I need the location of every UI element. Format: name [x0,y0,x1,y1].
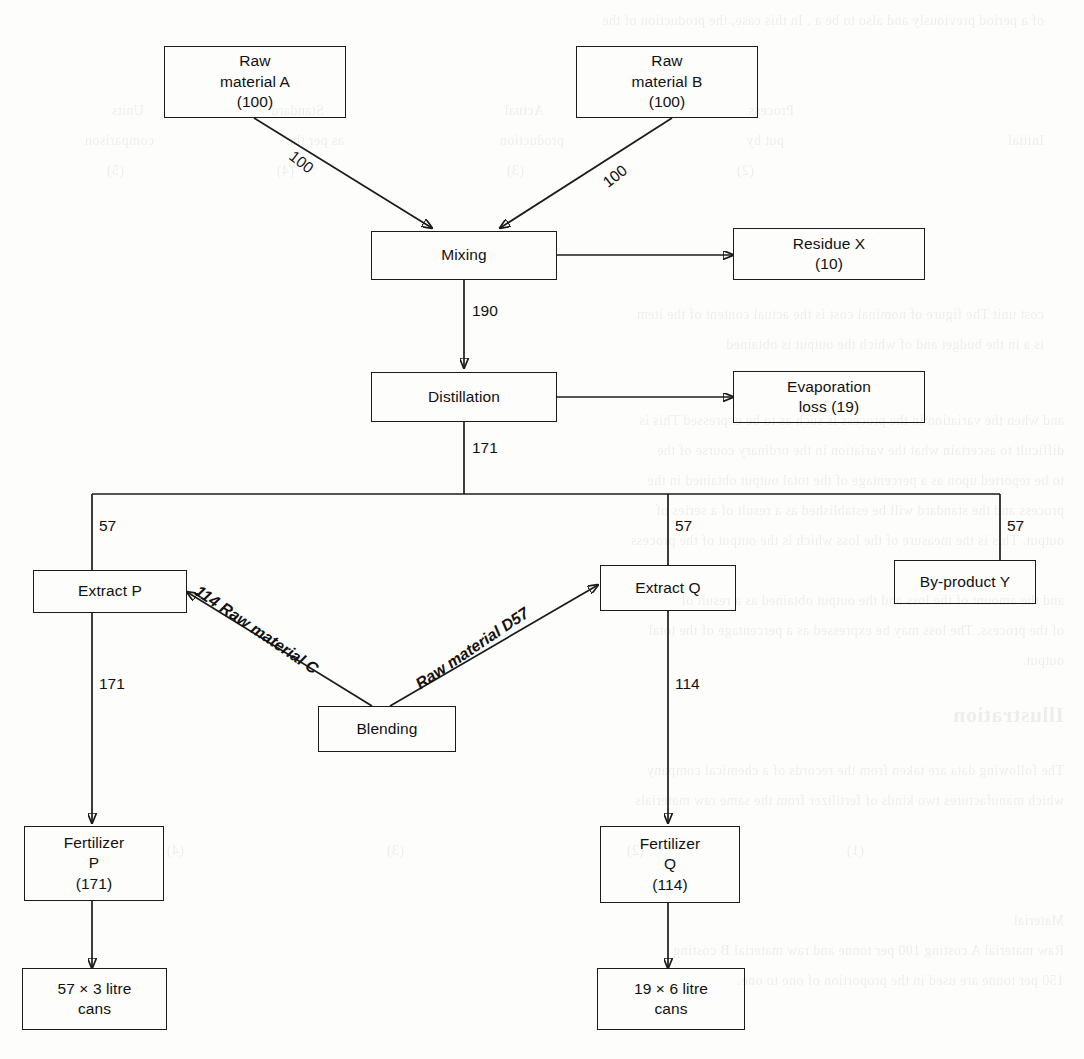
node-cans-q-line1: 19 × 6 litre [634,979,708,999]
edge-label-extract-p-to-fertilizer-p: 171 [99,676,125,692]
node-extract-q[interactable]: Extract Q [600,565,736,611]
node-distillation-label: Distillation [428,387,500,407]
node-raw-material-b-line2: material B [632,72,703,92]
node-residue-x[interactable]: Residue X (10) [733,228,925,280]
node-raw-material-b[interactable]: Raw material B (100) [576,46,758,118]
node-fertilizer-p-line3: (171) [64,874,124,894]
edge-b-to-mixing [500,118,672,228]
node-distillation[interactable]: Distillation [371,372,557,422]
node-fertilizer-q[interactable]: Fertilizer Q (114) [600,826,740,903]
node-raw-material-a-line3: (100) [220,92,290,112]
node-mixing[interactable]: Mixing [371,231,557,280]
node-by-product-y[interactable]: By-product Y [894,560,1036,604]
node-fertilizer-p-line1: Fertilizer [64,833,124,853]
node-cans-q[interactable]: 19 × 6 litre cans [597,968,745,1030]
node-fertilizer-q-line1: Fertilizer [640,834,700,854]
node-blending-label: Blending [356,719,417,739]
edge-label-split-to-by-product-y: 57 [1007,518,1024,534]
node-raw-material-a[interactable]: Raw material A (100) [164,46,346,118]
node-mixing-label: Mixing [441,245,486,265]
node-fertilizer-q-line3: (114) [640,875,700,895]
edge-a-to-mixing [254,118,432,228]
node-evaporation-loss-line2: loss (19) [787,397,871,417]
node-by-product-y-label: By-product Y [920,572,1011,592]
node-cans-p-line1: 57 × 3 litre [57,979,131,999]
node-extract-p[interactable]: Extract P [33,570,187,613]
diagram-page: of a period previously and also to be a … [0,0,1084,1059]
node-cans-p[interactable]: 57 × 3 litre cans [22,968,167,1030]
edge-label-mixing-to-distillation: 190 [472,303,498,319]
node-cans-p-line2: cans [57,999,131,1019]
node-fertilizer-p[interactable]: Fertilizer P (171) [24,826,164,901]
node-raw-material-a-line2: material A [220,72,290,92]
edge-label-distillation-to-split: 171 [472,440,498,456]
process-flow-diagram: Raw material A (100) Raw material B (100… [0,0,1084,1059]
edge-label-split-to-extract-p: 57 [99,518,116,534]
edge-label-extract-q-to-fertilizer-q: 114 [675,676,700,692]
node-raw-material-b-line3: (100) [632,92,703,112]
node-fertilizer-p-line2: P [64,853,124,873]
node-residue-x-line1: Residue X [793,234,865,254]
node-evaporation-loss-line1: Evaporation [787,377,871,397]
node-fertilizer-q-line2: Q [640,854,700,874]
node-raw-material-a-line1: Raw [220,51,290,71]
node-evaporation-loss[interactable]: Evaporation loss (19) [733,371,925,423]
node-blending[interactable]: Blending [318,706,456,752]
node-residue-x-line2: (10) [793,254,865,274]
node-extract-q-label: Extract Q [635,578,701,598]
node-cans-q-line2: cans [634,999,708,1019]
node-extract-p-label: Extract P [78,581,142,601]
edge-label-split-to-extract-q: 57 [675,518,692,534]
node-raw-material-b-line1: Raw [632,51,703,71]
